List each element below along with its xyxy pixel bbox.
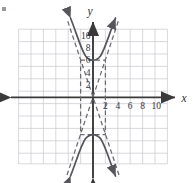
x-tick-6: 6 — [128, 101, 133, 111]
x-tick-8: 8 — [140, 101, 145, 111]
corner-mark-icon — [2, 7, 6, 11]
y-tick-8: 8 — [86, 43, 91, 53]
y-tick-10: 10 — [81, 31, 91, 41]
graph-canvas: 2 4 6 8 10 2 4 6 8 10 y x — [0, 0, 195, 183]
hyperbola-figure: 2 4 6 8 10 2 4 6 8 10 y x — [0, 0, 195, 183]
x-axis-label: x — [180, 92, 187, 104]
x-tick-10: 10 — [151, 101, 161, 111]
y-tick-6: 6 — [86, 55, 91, 65]
x-tick-labels: 2 4 6 8 10 — [103, 101, 161, 111]
y-axis-label: y — [86, 5, 93, 18]
x-tick-2: 2 — [103, 101, 108, 111]
x-tick-4: 4 — [115, 101, 120, 111]
y-tick-4: 4 — [86, 68, 91, 78]
y-tick-2: 2 — [86, 80, 91, 90]
